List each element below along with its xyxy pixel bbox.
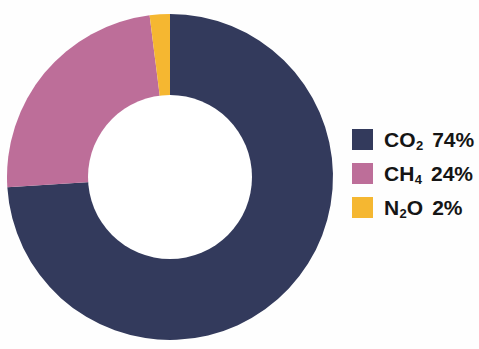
legend-label-ch4-prefix: CH [384, 162, 415, 185]
legend-swatch-n2o [352, 197, 373, 218]
chart-legend: CO2 74% CH4 24% N2O 2% [352, 122, 479, 224]
greenhouse-gas-donut-figure: CO2 74% CH4 24% N2O 2% [0, 0, 479, 349]
legend-value-ch4: 24% [431, 163, 473, 184]
legend-label-ch4-subscript: 4 [415, 172, 422, 187]
legend-item-ch4[interactable]: CH4 24% [352, 156, 479, 190]
legend-swatch-co2 [352, 129, 373, 150]
legend-label-n2o: N2O [384, 197, 423, 218]
legend-value-n2o: 2% [432, 197, 462, 218]
legend-label-ch4: CH4 [384, 163, 422, 184]
legend-item-n2o[interactable]: N2O 2% [352, 190, 479, 224]
legend-swatch-ch4 [352, 163, 373, 184]
legend-label-co2-prefix: CO [384, 128, 416, 151]
legend-item-co2[interactable]: CO2 74% [352, 122, 479, 156]
donut-chart [0, 0, 345, 349]
donut-hole [88, 95, 252, 259]
legend-label-n2o-suffix: O [407, 196, 424, 219]
donut-chart-svg [0, 0, 345, 349]
legend-label-n2o-subscript: 2 [399, 206, 406, 221]
legend-value-co2: 74% [432, 129, 474, 150]
legend-label-co2-subscript: 2 [416, 138, 423, 153]
legend-label-n2o-prefix: N [384, 196, 399, 219]
legend-label-co2: CO2 [384, 129, 423, 150]
